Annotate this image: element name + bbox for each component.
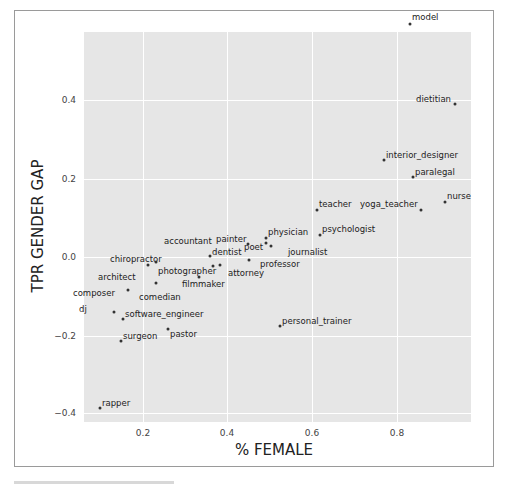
point-architect [155, 282, 158, 285]
plot-area: model dietitian interior_designer parale… [84, 32, 471, 422]
x-tick-0.2: 0.2 [136, 428, 150, 438]
y-tick-neg0.4: −0.4 [36, 408, 76, 418]
label-dietitian: dietitian [416, 95, 451, 104]
point-composer [127, 289, 130, 292]
point-model [409, 23, 412, 26]
point-dj [113, 311, 116, 314]
label-nurse: nurse [447, 192, 471, 201]
label-teacher: teacher [319, 200, 352, 209]
point-chiropractor [147, 264, 150, 267]
x-tick-0.8: 0.8 [390, 428, 404, 438]
label-psychologist: psychologist [322, 225, 375, 234]
label-architect: architect [98, 273, 136, 282]
gridline-y-0.2 [84, 179, 471, 180]
label-paralegal: paralegal [415, 168, 455, 177]
label-personal-trainer: personal_trainer [282, 317, 351, 326]
label-model: model [412, 13, 438, 22]
x-tick-0.4: 0.4 [220, 428, 234, 438]
y-axis-label: TPR GENDER GAP [29, 160, 47, 293]
point-yoga-teacher [420, 209, 423, 212]
label-dj: dj [79, 305, 87, 314]
gridline-x-0.2 [143, 32, 144, 422]
gridline-y-0.4 [84, 100, 471, 101]
point-journalist [270, 245, 273, 248]
point-professor [248, 259, 251, 262]
label-rapper: rapper [102, 399, 130, 408]
label-software-engineer: software_engineer [125, 310, 203, 319]
gridline-x-0.8 [397, 32, 398, 422]
figure-caption-illegible [14, 481, 174, 484]
point-attorney-a [212, 265, 215, 268]
gridline-y-neg0.4 [84, 413, 471, 414]
label-filmmaker: filmmaker [182, 280, 225, 289]
label-interior-designer: interior_designer [386, 151, 458, 160]
x-axis-label: % FEMALE [0, 441, 508, 459]
label-professor: professor [260, 260, 300, 269]
y-tick-0.4: 0.4 [36, 95, 76, 105]
point-poet [265, 242, 268, 245]
label-comedian: comedian [139, 293, 181, 302]
label-painter: painter [216, 235, 246, 244]
label-dentist: dentist [212, 248, 241, 257]
label-yoga-teacher: yoga_teacher [360, 200, 418, 209]
point-dietitian [454, 103, 457, 106]
label-attorney: attorney [228, 269, 264, 278]
label-pastor: pastor [170, 330, 197, 339]
gridline-x-0.6 [312, 32, 313, 422]
gridline-x-0.4 [227, 32, 228, 422]
point-photographer [155, 261, 158, 264]
point-attorney [219, 264, 222, 267]
label-photographer: photographer [158, 267, 216, 276]
y-tick-neg0.2: −0.2 [36, 331, 76, 341]
point-painter [247, 243, 250, 246]
label-accountant: accountant [164, 237, 212, 246]
label-journalist: journalist [288, 248, 327, 257]
x-tick-0.6: 0.6 [305, 428, 319, 438]
label-surgeon: surgeon [123, 332, 157, 341]
label-physician: physician [268, 228, 308, 237]
label-composer: composer [73, 289, 115, 298]
